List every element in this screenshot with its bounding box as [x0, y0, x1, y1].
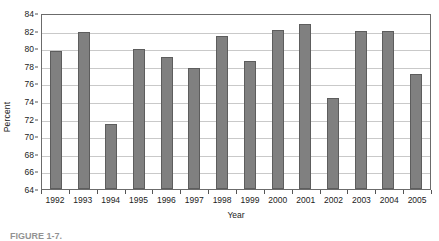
- x-axis-tick-mark: [347, 190, 348, 194]
- x-axis-tick-label: 2004: [375, 195, 403, 209]
- bar-slot: [347, 15, 375, 189]
- x-axis-tick-mark: [125, 190, 126, 194]
- bar-slot: [70, 15, 98, 189]
- bar-1997[interactable]: [188, 68, 200, 189]
- x-axis-title: Year: [41, 210, 431, 220]
- y-axis-tick-mark: [35, 102, 38, 103]
- x-axis-tick-label: 2001: [292, 195, 320, 209]
- x-axis-tick-label: 1996: [152, 195, 180, 209]
- bar-1996[interactable]: [161, 57, 173, 189]
- bar-1995[interactable]: [133, 49, 145, 189]
- y-axis-tick-mark: [35, 84, 38, 85]
- x-axis-tick-mark: [236, 190, 237, 194]
- x-axis-tick-mark: [152, 190, 153, 194]
- x-axis-tick-label: 2005: [403, 195, 431, 209]
- bar-1998[interactable]: [216, 36, 228, 189]
- bar-2004[interactable]: [382, 31, 394, 189]
- bar-slot: [181, 15, 209, 189]
- x-axis-tick-label: 2003: [347, 195, 375, 209]
- bar-2002[interactable]: [327, 98, 339, 189]
- x-axis-tick-mark: [180, 190, 181, 194]
- x-axis-tick-mark: [292, 190, 293, 194]
- x-axis-tick-label: 1995: [125, 195, 153, 209]
- bar-1999[interactable]: [244, 61, 256, 189]
- x-axis-tick-label: 1998: [208, 195, 236, 209]
- y-axis-tick-mark: [35, 14, 38, 15]
- x-axis-tick-label: 1992: [41, 195, 69, 209]
- x-axis-tick-label: 2002: [320, 195, 348, 209]
- x-axis-tick-labels: 1992199319941995199619971998199920002001…: [41, 195, 431, 209]
- y-axis-tick-labels: 6466687072747678808284: [14, 14, 38, 190]
- bar-slot: [319, 15, 347, 189]
- figure-caption-text: FIGURE 1-7.: [10, 231, 430, 241]
- y-axis-tick-label: 80: [25, 44, 34, 54]
- y-axis-title-text: Percent: [2, 102, 12, 133]
- y-axis-tick-label: 68: [25, 150, 34, 160]
- y-axis-tick-mark: [35, 190, 38, 191]
- bar-slot: [375, 15, 403, 189]
- y-axis-tick-label: 72: [25, 115, 34, 125]
- x-axis-tick-mark: [320, 190, 321, 194]
- bar-slot: [264, 15, 292, 189]
- bar-2005[interactable]: [410, 74, 422, 189]
- y-axis-tick-mark: [35, 154, 38, 155]
- y-axis-tick-label: 76: [25, 79, 34, 89]
- bar-slot: [208, 15, 236, 189]
- y-axis-tick-mark: [35, 119, 38, 120]
- x-axis-tick-mark: [375, 190, 376, 194]
- x-axis-tick-mark: [264, 190, 265, 194]
- x-axis-tick-mark: [41, 190, 42, 194]
- y-axis-tick-label: 82: [25, 27, 34, 37]
- x-axis-tick-mark: [431, 190, 432, 194]
- y-axis-tick-mark: [35, 66, 38, 67]
- y-axis-tick-label: 70: [25, 132, 34, 142]
- bar-2000[interactable]: [272, 30, 284, 189]
- x-axis-tick-label: 1997: [180, 195, 208, 209]
- figure-container: Percent 6466687072747678808284 199219931…: [0, 0, 439, 241]
- y-axis-tick-label: 74: [25, 97, 34, 107]
- bar-slot: [291, 15, 319, 189]
- bar-slot: [402, 15, 430, 189]
- bar-2003[interactable]: [355, 31, 367, 189]
- bar-slot: [236, 15, 264, 189]
- x-axis-tick-mark: [208, 190, 209, 194]
- bar-2001[interactable]: [299, 24, 311, 189]
- y-axis-tick-mark: [35, 172, 38, 173]
- y-axis-tick-mark: [35, 137, 38, 138]
- y-axis-tick-label: 78: [25, 62, 34, 72]
- x-axis-tick-mark: [69, 190, 70, 194]
- x-axis-tick-label: 1993: [69, 195, 97, 209]
- bar-1994[interactable]: [105, 124, 117, 189]
- bar-slot: [153, 15, 181, 189]
- bar-slot: [97, 15, 125, 189]
- y-axis-tick-mark: [35, 49, 38, 50]
- y-axis-title: Percent: [0, 62, 14, 172]
- x-axis-tick-label: 1994: [97, 195, 125, 209]
- x-axis-tick-label: 1999: [236, 195, 264, 209]
- y-axis-tick-label: 84: [25, 9, 34, 19]
- y-axis-tick-mark: [35, 31, 38, 32]
- y-axis-tick-label: 66: [25, 167, 34, 177]
- bar-slot: [125, 15, 153, 189]
- bar-1992[interactable]: [50, 51, 62, 189]
- plot-area: [41, 14, 431, 190]
- figure-caption: FIGURE 1-7.: [10, 231, 430, 241]
- x-axis-tick-label: 2000: [264, 195, 292, 209]
- x-axis-tick-mark: [97, 190, 98, 194]
- y-axis-tick-label: 64: [25, 185, 34, 195]
- bar-1993[interactable]: [78, 32, 90, 189]
- x-axis-tick-mark: [403, 190, 404, 194]
- bar-series: [42, 15, 430, 189]
- bar-slot: [42, 15, 70, 189]
